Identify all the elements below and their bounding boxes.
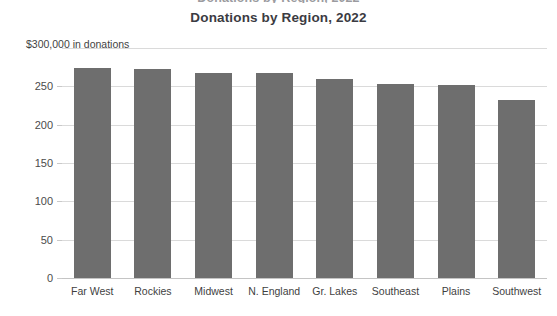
gridline-0 (62, 278, 547, 279)
y-tick-label: 100 (35, 195, 53, 207)
x-tick-label: Rockies (134, 285, 171, 297)
x-tick-label: Gr. Lakes (312, 285, 357, 297)
plot-area: $300,000 in donations 050100150200250 Fa… (62, 48, 547, 278)
x-tick-label: Southwest (492, 285, 541, 297)
bars-layer (62, 48, 547, 278)
y-tick-label: 250 (35, 80, 53, 92)
x-tick-label: Plains (442, 285, 471, 297)
bar[interactable] (438, 85, 475, 278)
bar[interactable] (256, 73, 293, 278)
x-tick-label: Midwest (194, 285, 233, 297)
y-tick-label: 150 (35, 157, 53, 169)
y-tick-label: 0 (47, 272, 53, 284)
x-tick-label: N. England (248, 285, 300, 297)
y-tick-label: 50 (41, 234, 53, 246)
x-tick-label: Southeast (372, 285, 419, 297)
bar[interactable] (134, 69, 171, 278)
bar-chart-figure: Donations by Region, 2022 $300,000 in do… (0, 0, 557, 316)
bar[interactable] (316, 79, 353, 278)
y-tick-label: 200 (35, 119, 53, 131)
bar[interactable] (74, 68, 111, 278)
bar[interactable] (195, 73, 232, 278)
chart-title: Donations by Region, 2022 (0, 10, 557, 25)
y-tick-mark-0 (57, 278, 62, 279)
bar[interactable] (498, 100, 535, 278)
bar[interactable] (377, 84, 414, 278)
x-tick-label: Far West (71, 285, 113, 297)
